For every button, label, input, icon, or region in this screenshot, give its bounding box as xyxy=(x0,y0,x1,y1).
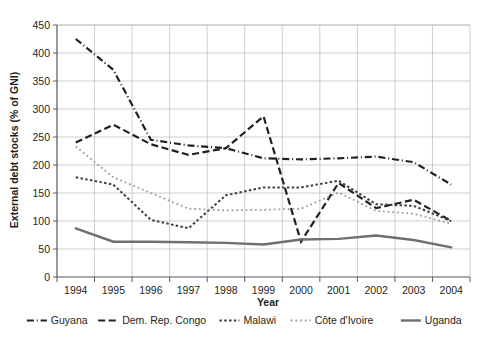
y-tick-label: 100 xyxy=(32,215,50,227)
x-tick-label: 2000 xyxy=(289,284,313,296)
y-tick-label: 150 xyxy=(32,187,50,199)
y-tick-label: 250 xyxy=(32,131,50,143)
y-tick-labels: 050100150200250300350400450 xyxy=(32,19,50,283)
legend-label: Côte d'Ivoire xyxy=(315,314,374,326)
y-tick-label: 450 xyxy=(32,19,50,31)
legend-label: Dem. Rep. Congo xyxy=(122,314,206,326)
x-tick-label: 1994 xyxy=(64,284,88,296)
y-tick-label: 350 xyxy=(32,75,50,87)
legend-item-uganda[interactable]: Uganda xyxy=(401,314,462,326)
legend-item-dem-rep-congo[interactable]: Dem. Rep. Congo xyxy=(98,314,206,326)
y-tick-label: 50 xyxy=(38,243,50,255)
y-tick-label: 300 xyxy=(32,103,50,115)
x-tick-label: 1998 xyxy=(214,284,238,296)
y-tick-label: 400 xyxy=(32,47,50,59)
x-tick-label: 2004 xyxy=(440,284,464,296)
x-tick-label: 2003 xyxy=(402,284,426,296)
y-tick-label: 0 xyxy=(44,271,50,283)
x-tick-label: 1995 xyxy=(102,284,126,296)
y-axis-title: External debt stocks (% of GNI) xyxy=(8,72,20,228)
legend-item-guyana[interactable]: Guyana xyxy=(27,314,88,326)
legend-label: Guyana xyxy=(51,314,88,326)
chart-figure: 050100150200250300350400450 199419951996… xyxy=(0,0,485,346)
legend-item-malawi[interactable]: Malawi xyxy=(219,314,276,326)
line-chart: 050100150200250300350400450 199419951996… xyxy=(0,0,485,346)
x-tick-label: 1997 xyxy=(177,284,201,296)
x-tick-label: 2001 xyxy=(327,284,351,296)
x-tick-labels: 1994199519961997199819992000200120022003… xyxy=(64,284,463,296)
chart-legend: GuyanaDem. Rep. CongoMalawiCôte d'Ivoire… xyxy=(27,314,462,326)
legend-label: Uganda xyxy=(425,314,462,326)
x-tick-label: 1996 xyxy=(139,284,163,296)
y-tick-label: 200 xyxy=(32,159,50,171)
x-tick-label: 1999 xyxy=(252,284,276,296)
x-tick-label: 2002 xyxy=(364,284,388,296)
legend-item-c-te-d-ivoire[interactable]: Côte d'Ivoire xyxy=(291,314,374,326)
legend-label: Malawi xyxy=(243,314,276,326)
x-axis-title: Year xyxy=(257,296,279,308)
